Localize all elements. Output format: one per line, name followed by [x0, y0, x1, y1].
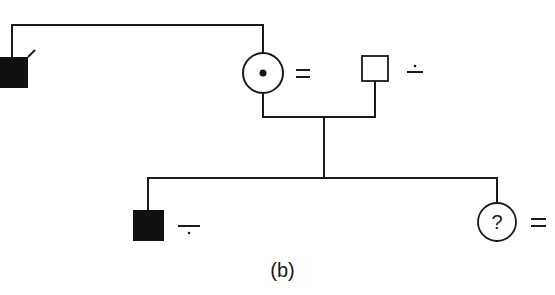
affected-male-symbol-II1: [133, 210, 164, 241]
sibling-line-gen1: [12, 25, 263, 57]
question-mark-label: ?: [491, 211, 502, 233]
carrier-dot-icon: [260, 70, 267, 77]
pedigree-chart: ?: [0, 0, 555, 295]
divide-marker-I3: [407, 65, 423, 72]
bar-dot-marker-II1: [178, 226, 200, 234]
affected-male-symbol-I1: [0, 57, 28, 88]
equals-marker-I2: [296, 70, 310, 77]
equals-marker-II2: [531, 219, 546, 226]
unaffected-male-symbol-I3: [362, 56, 388, 81]
mating-line: [263, 81, 375, 117]
figure-caption-container: (b): [0, 259, 555, 282]
sibship-line-gen2: [148, 178, 497, 210]
figure-caption: (b): [270, 259, 294, 282]
deceased-slash-icon: [28, 50, 35, 57]
